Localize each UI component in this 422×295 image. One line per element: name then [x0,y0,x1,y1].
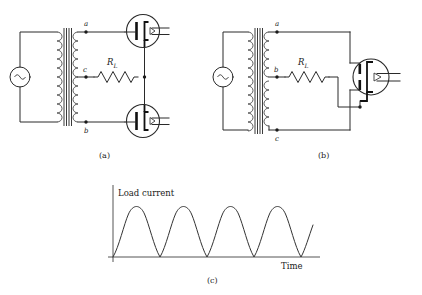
lower-diode-tube-a [125,77,169,138]
upper-diode-tube-a [125,15,169,78]
secondary-coil-lower-b [264,81,269,130]
cathode-return-node-a [143,75,146,78]
load-resistor-a: RL [94,57,138,83]
secondary-coil-upper-a [73,32,78,77]
resistor-label-b: RL [297,57,308,69]
duo-diode-tube-b [350,59,400,109]
primary-loop-b [223,32,248,130]
load-current-graph: Load current Time (c) [108,185,320,285]
node-b-circuit-a: b [78,120,125,135]
caption-a: (a) [99,151,110,160]
transformer-core-a [64,28,72,126]
figure-canvas: a c RL b [0,0,422,295]
node-c-circuit-a: c [78,66,94,79]
circuit-b: a b RL c [213,20,400,160]
primary-coil-a [57,32,62,122]
ac-source-a [10,67,30,87]
circuit-a: a c RL b [10,15,169,161]
figure-root: a c RL b [0,0,422,295]
node-a-circuit-a: a [78,20,125,34]
node-label-a1: a [84,20,88,28]
node-label-a2: a [275,20,279,28]
secondary-coil-upper-b [264,32,269,77]
node-label-c1: c [83,66,87,74]
primary-loop-a [20,32,57,122]
secondary-coil-lower-a [73,77,78,122]
y-axis-label: Load current [118,188,175,198]
node-b-circuit-b: b [269,66,285,79]
caption-b: (b) [318,151,329,160]
node-label-b1: b [84,127,89,135]
x-axis-label: Time [281,261,302,271]
rectified-sine-waveform [113,207,313,258]
transformer-core-b [255,28,263,134]
load-resistor-b: RL [285,57,360,107]
ac-source-b [213,67,233,87]
node-label-b2: b [274,66,279,74]
caption-c: (c) [207,276,218,285]
primary-coil-b [248,32,253,131]
node-label-c2: c [275,135,279,143]
resistor-label-a: RL [106,57,117,69]
node-a-circuit-b: a [269,20,350,63]
